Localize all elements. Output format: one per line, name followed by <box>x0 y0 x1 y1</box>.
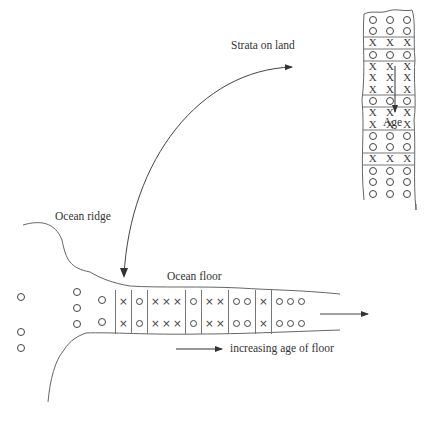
circle-symbol <box>136 320 143 327</box>
cross-symbol: X <box>403 61 411 72</box>
floor-column <box>188 290 199 334</box>
floor-column <box>274 290 285 334</box>
strata-row <box>364 130 416 142</box>
circle-symbol <box>369 190 377 198</box>
floor-group <box>131 290 147 334</box>
correlation-arrow <box>124 67 292 276</box>
cross-symbol: X <box>369 72 377 83</box>
cross-symbol: X <box>386 107 394 118</box>
circle-symbol <box>369 27 377 35</box>
circle-symbol <box>369 16 377 24</box>
circle-symbol <box>276 298 283 305</box>
circle-symbol <box>369 132 377 140</box>
cross-symbol: X <box>386 153 394 164</box>
cross-symbol: × <box>119 295 128 307</box>
floor-column: ×× <box>172 290 183 334</box>
cross-symbol: X <box>386 119 394 130</box>
cross-symbol: X <box>386 37 394 48</box>
strata-row: XXX <box>364 37 416 49</box>
circle-symbol <box>386 97 394 105</box>
ridge-circle <box>17 328 25 336</box>
ridge-circle <box>98 296 106 304</box>
circle-symbol <box>369 97 377 105</box>
circle-symbol <box>403 143 411 151</box>
cross-symbol: × <box>119 317 128 329</box>
floor-group: ×××× <box>201 290 228 334</box>
cross-symbol: X <box>386 84 394 95</box>
cross-symbol: X <box>403 153 411 164</box>
cross-symbol: × <box>173 295 182 307</box>
circle-symbol <box>386 16 394 24</box>
cross-symbol: × <box>216 317 225 329</box>
cross-symbol: X <box>369 84 377 95</box>
ridge-circle <box>73 288 81 296</box>
circle-symbol <box>386 132 394 140</box>
cross-symbol: × <box>162 295 171 307</box>
ridge-circle <box>17 293 25 301</box>
circle-symbol <box>276 320 283 327</box>
circle-symbol <box>369 167 377 175</box>
ocean-floor-strip: ×××××××××××××× <box>115 290 309 334</box>
cross-symbol: × <box>151 295 160 307</box>
cross-symbol: X <box>369 61 377 72</box>
strata-on-land-label: Strata on land <box>231 39 295 51</box>
floor-group: ×× <box>255 290 271 334</box>
circle-symbol <box>403 132 411 140</box>
floor-column <box>242 290 253 334</box>
floor-column: ×× <box>161 290 172 334</box>
strata-column: XXXXXXXXXXXXXXXXXXXXX <box>364 14 416 200</box>
circle-symbol <box>369 178 377 186</box>
cross-symbol: X <box>369 153 377 164</box>
ocean-ridge-label: Ocean ridge <box>55 210 111 222</box>
cross-symbol: × <box>259 295 268 307</box>
circle-symbol <box>386 167 394 175</box>
cross-symbol: × <box>162 317 171 329</box>
floor-column <box>285 290 296 334</box>
floor-column: ×× <box>215 290 226 334</box>
strata-row: XXX <box>364 107 416 119</box>
floor-column: ×× <box>150 290 161 334</box>
cross-symbol: X <box>403 84 411 95</box>
floor-column: ×× <box>118 290 129 334</box>
strata-row <box>364 14 416 26</box>
cross-symbol: X <box>369 119 377 130</box>
circle-symbol <box>233 298 240 305</box>
circle-symbol <box>403 167 411 175</box>
floor-column <box>134 290 145 334</box>
strata-row: XXX <box>364 72 416 84</box>
cross-symbol: X <box>369 107 377 118</box>
circle-symbol <box>386 27 394 35</box>
cross-symbol: X <box>403 37 411 48</box>
circle-symbol <box>298 320 305 327</box>
cross-symbol: × <box>216 295 225 307</box>
strata-row <box>364 95 416 107</box>
circle-symbol <box>403 51 411 59</box>
cross-symbol: × <box>173 317 182 329</box>
strata-row <box>364 176 416 188</box>
strata-row: XXX <box>364 84 416 96</box>
strata-row <box>364 26 416 38</box>
floor-group <box>185 290 201 334</box>
ridge-circle <box>73 304 81 312</box>
cross-symbol: X <box>369 37 377 48</box>
circle-symbol <box>244 320 251 327</box>
circle-symbol <box>369 143 377 151</box>
ridge-circle <box>98 318 106 326</box>
floor-column <box>231 290 242 334</box>
floor-column: ×× <box>204 290 215 334</box>
circle-symbol <box>136 298 143 305</box>
ridge-circle <box>73 320 81 328</box>
floor-column <box>296 290 307 334</box>
circle-symbol <box>386 51 394 59</box>
strata-row <box>364 165 416 177</box>
circle-symbol <box>287 320 294 327</box>
circle-symbol <box>190 320 197 327</box>
circle-symbol <box>386 143 394 151</box>
circle-symbol <box>386 190 394 198</box>
circle-symbol <box>369 51 377 59</box>
circle-symbol <box>403 190 411 198</box>
strata-row: XXX <box>364 60 416 72</box>
cross-symbol: × <box>205 317 214 329</box>
floor-group: ×××××× <box>147 290 185 334</box>
circle-symbol <box>403 27 411 35</box>
